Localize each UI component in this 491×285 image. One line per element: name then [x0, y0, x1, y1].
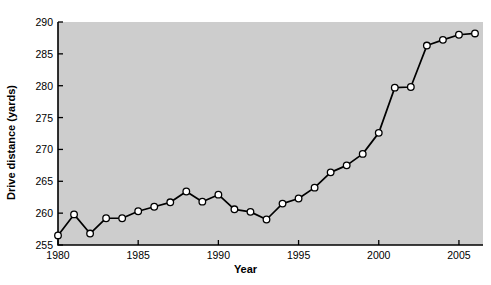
data-point [263, 216, 270, 223]
data-point [440, 37, 447, 44]
data-point [183, 188, 190, 195]
y-tick-label: 260 [35, 207, 53, 219]
line-chart-plot: 255260265270275280285290 198019851990199… [0, 0, 491, 285]
y-tick-label: 285 [35, 48, 53, 60]
data-point [151, 203, 158, 210]
data-point [472, 30, 479, 37]
data-point [359, 151, 366, 158]
data-point [231, 206, 238, 213]
data-point [327, 169, 334, 176]
x-tick-label: 1995 [287, 249, 311, 261]
y-tick-label: 265 [35, 175, 53, 187]
data-point [71, 211, 78, 218]
y-tick-label: 280 [35, 80, 53, 92]
data-point [311, 184, 318, 191]
chart-figure: Drive distance (yards) Year 255260265270… [0, 0, 491, 285]
x-tick-label: 1990 [207, 249, 231, 261]
data-point [87, 230, 94, 237]
x-tick-label: 1980 [46, 249, 70, 261]
data-point [247, 209, 254, 216]
y-tick-label: 275 [35, 112, 53, 124]
data-point [135, 208, 142, 215]
data-point [424, 42, 431, 49]
data-point [295, 195, 302, 202]
data-point [167, 199, 174, 206]
data-point [456, 31, 463, 38]
data-point [343, 162, 350, 169]
data-point [55, 232, 62, 239]
data-point [119, 215, 126, 222]
y-tick-label: 290 [35, 16, 53, 28]
data-point [103, 215, 110, 222]
data-point [199, 198, 206, 205]
x-tick-label: 2005 [447, 249, 471, 261]
plot-background [58, 22, 483, 245]
data-point [408, 84, 415, 91]
data-point [375, 130, 382, 137]
data-point [215, 191, 222, 198]
x-tick-label: 1985 [127, 249, 151, 261]
data-point [279, 200, 286, 207]
x-tick-label: 2000 [367, 249, 391, 261]
y-tick-label: 270 [35, 143, 53, 155]
data-point [391, 84, 398, 91]
